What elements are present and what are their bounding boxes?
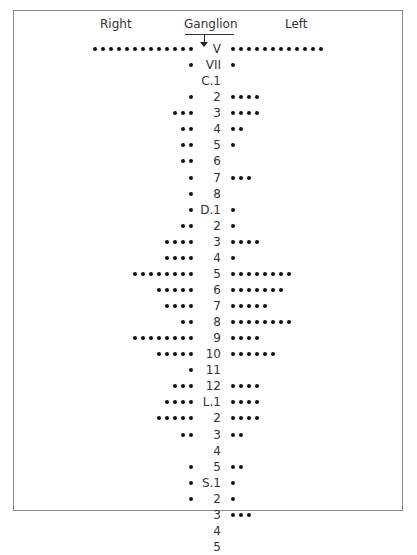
ganglion-rows: VVIIC.12345678D.123456789101112L.12345S.… [0, 41, 417, 555]
dot-icon [231, 256, 235, 260]
dot-icon [181, 272, 185, 276]
right-dots [93, 41, 193, 57]
dot-icon [189, 143, 193, 147]
ganglion-row: 3 [0, 427, 417, 443]
dot-icon [239, 336, 243, 340]
left-dots [231, 491, 235, 507]
ganglion-row: 4 [0, 121, 417, 137]
right-dots [189, 475, 193, 491]
ganglion-column-header: Ganglion [184, 17, 238, 31]
ganglion-row: 12 [0, 378, 417, 394]
ganglion-row: 5 [0, 137, 417, 153]
dot-icon [189, 47, 193, 51]
ganglion-label: VII [206, 57, 221, 73]
right-dots [181, 137, 193, 153]
left-dots [231, 378, 259, 394]
dot-icon [239, 400, 243, 404]
ganglion-row: 2 [0, 218, 417, 234]
dot-icon [255, 47, 259, 51]
dot-icon [231, 320, 235, 324]
dot-icon [263, 288, 267, 292]
right-dots [189, 89, 193, 105]
ganglion-label: 3 [213, 427, 221, 443]
dot-icon [247, 400, 251, 404]
ganglion-label: V [213, 41, 221, 57]
dot-icon [189, 400, 193, 404]
dot-icon [141, 272, 145, 276]
right-dots [189, 186, 193, 202]
ganglion-row: 6 [0, 153, 417, 169]
ganglion-label: 12 [206, 378, 221, 394]
dot-icon [231, 272, 235, 276]
dot-icon [231, 176, 235, 180]
dot-icon [189, 288, 193, 292]
ganglion-label: 7 [213, 170, 221, 186]
ganglion-label: 5 [213, 459, 221, 475]
right-dots [181, 121, 193, 137]
right-dots [189, 362, 193, 378]
right-dots [173, 378, 193, 394]
ganglion-label: 8 [213, 186, 221, 202]
ganglion-label: D.1 [200, 202, 221, 218]
dot-icon [189, 95, 193, 99]
right-dots [189, 491, 193, 507]
dot-icon [239, 272, 243, 276]
right-dots [181, 427, 193, 443]
dot-icon [231, 143, 235, 147]
left-dots [231, 427, 243, 443]
dot-icon [173, 240, 177, 244]
dot-icon [263, 272, 267, 276]
dot-icon [189, 336, 193, 340]
dot-icon [165, 400, 169, 404]
dot-icon [181, 352, 185, 356]
dot-icon [101, 47, 105, 51]
dot-icon [303, 47, 307, 51]
ganglion-row: V [0, 41, 417, 57]
dot-icon [255, 320, 259, 324]
dot-icon [239, 352, 243, 356]
dot-icon [189, 497, 193, 501]
left-dots [231, 250, 235, 266]
dot-icon [255, 400, 259, 404]
dot-icon [141, 47, 145, 51]
ganglion-label: L.1 [203, 394, 221, 410]
dot-icon [189, 416, 193, 420]
dot-icon [189, 256, 193, 260]
dot-icon [279, 320, 283, 324]
dot-icon [93, 47, 97, 51]
dot-icon [165, 416, 169, 420]
ganglion-label: 2 [213, 491, 221, 507]
left-dots [231, 314, 291, 330]
right-dots [189, 202, 193, 218]
dot-icon [173, 288, 177, 292]
right-dots [181, 314, 193, 330]
dot-icon [319, 47, 323, 51]
dot-icon [133, 272, 137, 276]
dot-icon [231, 481, 235, 485]
right-dots [133, 330, 193, 346]
dot-icon [239, 433, 243, 437]
dot-icon [239, 384, 243, 388]
dot-icon [239, 288, 243, 292]
dot-icon [181, 111, 185, 115]
dot-icon [141, 336, 145, 340]
ganglion-row: 7 [0, 298, 417, 314]
right-dots [157, 346, 193, 362]
dot-icon [279, 47, 283, 51]
dot-icon [189, 63, 193, 67]
dot-icon [133, 336, 137, 340]
ganglion-row: D.1 [0, 202, 417, 218]
dot-icon [247, 304, 251, 308]
ganglion-row: 4 [0, 523, 417, 539]
dot-icon [189, 111, 193, 115]
dot-icon [255, 416, 259, 420]
right-dots [165, 234, 193, 250]
dot-icon [287, 47, 291, 51]
dot-icon [231, 127, 235, 131]
dot-icon [189, 208, 193, 212]
left-dots [231, 89, 259, 105]
dot-icon [181, 384, 185, 388]
dot-icon [231, 63, 235, 67]
left-dots [231, 41, 323, 57]
dot-icon [157, 288, 161, 292]
